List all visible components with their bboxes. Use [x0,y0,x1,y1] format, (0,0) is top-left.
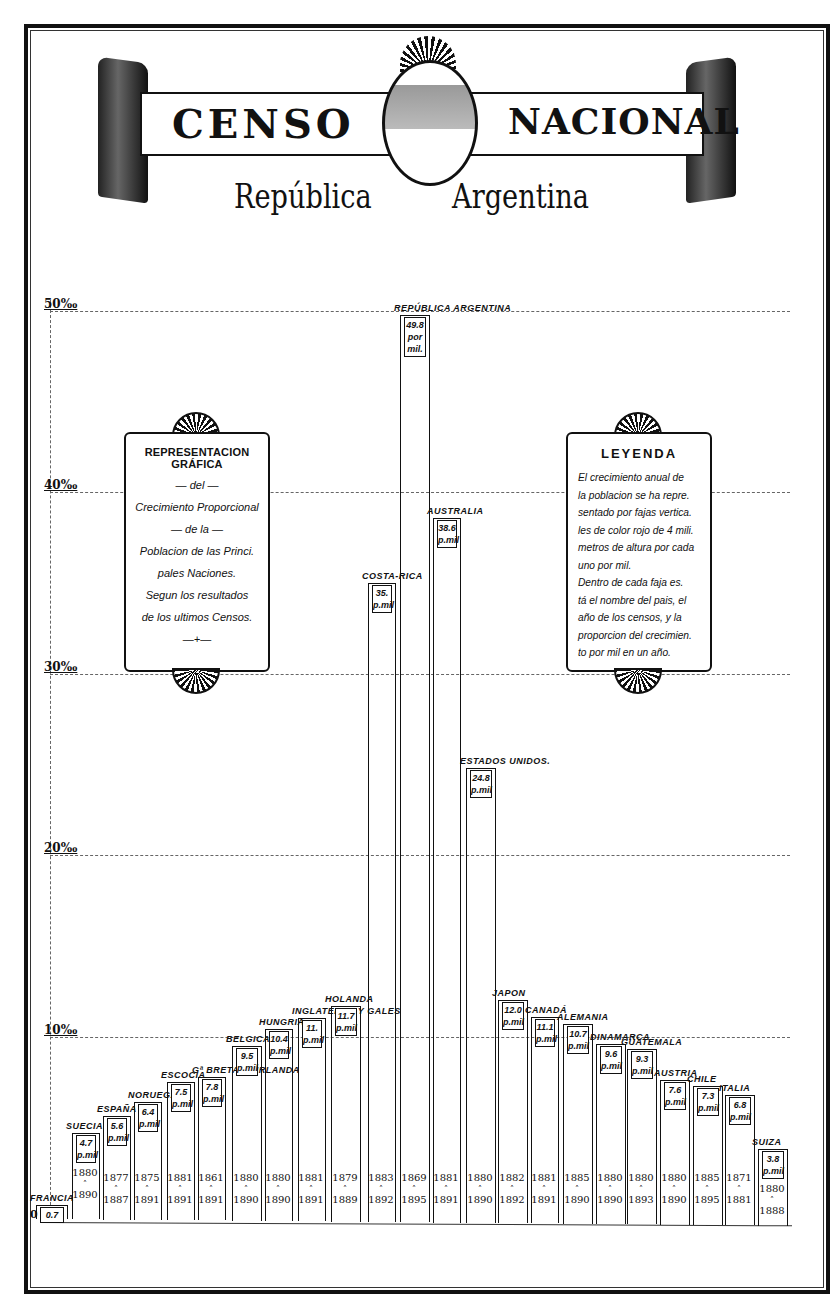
bar-census-years: 1880˄1890 [660,1172,688,1205]
legend-line: sentado por fajas vertica. [568,504,710,522]
bar-country-label: REPÚBLICA ARGENTINA [394,303,511,313]
caret-icon: ˄ [400,1183,428,1194]
bar-census-years: 1881˄1891 [167,1172,193,1205]
bar-value: 7.3 [698,1090,718,1102]
cartouche-line: Crecimiento Proporcional [126,496,268,518]
bar-census-years: 1883˄1892 [368,1172,394,1205]
bar-country-label: BELGICA [226,1034,270,1044]
subtitle-republica: República [234,176,372,216]
census-year-start: 1880 [660,1172,688,1183]
census-year-start: 1877 [103,1172,129,1183]
bar-unit: p.mil [108,1132,126,1144]
census-year-end: 1890 [563,1194,591,1205]
bar-value-label: 0.7 [40,1207,64,1223]
caret-icon: ˄ [660,1183,688,1194]
caret-icon: ˄ [498,1183,526,1194]
caret-icon: ˄ [531,1183,557,1194]
census-year-start: 1879 [331,1172,359,1183]
caret-icon: ˄ [298,1183,324,1194]
census-year-start: 1880 [596,1172,624,1183]
caret-icon: ˄ [433,1183,459,1194]
census-year-start: 1885 [693,1172,721,1183]
bar-unit: p.mil [172,1098,190,1110]
bar-unit: p.mil [698,1102,718,1114]
caret-icon: ˄ [167,1183,193,1194]
title-censo: CENSO [172,100,355,147]
census-year-start: 1869 [400,1172,428,1183]
census-year-start: 1881 [298,1172,324,1183]
bar-country-label: HOLANDA [325,994,374,1004]
bar-value-label: 9.5p.mil [236,1048,258,1076]
bar-value-label: 7.6p.mil [664,1082,686,1110]
y-tick-label: 40‰ [44,478,77,492]
bar-value: 9.6 [601,1048,621,1060]
bar-value: 7.6 [665,1084,685,1096]
legend-cartouche: LEYENDA El crecimiento anual de la pobla… [566,432,712,672]
bar-census-years: 1877˄1887 [103,1172,129,1205]
caret-icon: ˄ [627,1183,655,1194]
bar-value-label: 11.p.mil [302,1020,322,1048]
census-year-start: 1861 [198,1172,224,1183]
census-year-end: 1892 [368,1194,394,1205]
caret-icon: ˄ [134,1183,160,1194]
census-year-start: 1880 [627,1172,655,1183]
bar-unit: p.mil [438,534,456,546]
bar-value: 38.6 [438,522,456,534]
census-year-end: 1895 [693,1194,721,1205]
caret-icon: ˄ [466,1183,494,1194]
census-year-end: 1887 [103,1194,129,1205]
bar-value: 10.4 [270,1033,288,1045]
bar-country-label: FRANCIA [30,1193,74,1203]
legend-line: la poblacion se ha repre. [568,487,710,505]
bar-value: 11. [303,1022,321,1034]
bar-unit: p.mil [139,1118,157,1130]
bar-country-label: ALEMANIA [557,1012,609,1022]
census-year-end: 1893 [627,1194,655,1205]
census-year-end: 1891 [433,1194,459,1205]
bar-country-label: CHILE [687,1074,717,1084]
census-year-end: 1891 [198,1194,224,1205]
census-year-end: 1895 [400,1194,428,1205]
bar-country-label: SUIZA [752,1137,782,1147]
legend-line: Dentro de cada faja es. [568,574,710,592]
census-year-end: 1891 [531,1194,557,1205]
legend-line: año de los censos, y la [568,609,710,627]
bar-census-years: 1881˄1891 [298,1172,324,1205]
census-year-end: 1890 [232,1194,260,1205]
bar-value-label: 7.3p.mil [697,1088,719,1116]
bar-value-label: 49.8por mil. [404,317,426,357]
y-tick-label: 20‰ [44,841,77,855]
bar-country-label: AUSTRALIA [427,506,484,516]
bar-census-years: 1882˄1892 [498,1172,526,1205]
cartouche-title: REPRESENTACION GRÁFICA [126,446,268,470]
caret-icon: ˄ [596,1183,624,1194]
bar-census-years: 1869˄1895 [400,1172,428,1205]
caret-icon: ˄ [198,1183,224,1194]
y-tick-label: 50‰ [44,297,77,311]
bar-census-years: 1861˄1891 [198,1172,224,1205]
bar-unit: p.mil [665,1096,685,1108]
bar-unit: p.mil [336,1022,356,1034]
bar-value: 24.8 [471,772,491,784]
census-year-end: 1881 [725,1194,753,1205]
bar-country-label: ESTADOS UNIDOS. [460,756,550,766]
cartouche-line: —+— [126,628,268,650]
bar-unit: p.mil [373,599,391,611]
bar-value: 7.5 [172,1086,190,1098]
cartouche-line: Poblacion de las Princi. [126,540,268,562]
bar-value-label: 12.0p.mil [502,1002,524,1030]
bar-value: 6.4 [139,1106,157,1118]
bar-value-label: 10.4p.mil [269,1031,289,1059]
census-year-start: 1880 [265,1172,291,1183]
bar-value-label: 6.8p.mil [729,1097,751,1125]
subtitle-argentina: Argentina [452,176,589,216]
bar-census-years: 1880˄1890 [72,1167,98,1200]
bar-unit: p.mil [503,1016,523,1028]
census-year-end: 1891 [167,1194,193,1205]
bar-unit: p.mil [632,1065,652,1077]
census-year-start: 1875 [134,1172,160,1183]
bar-unit: p.mil [77,1149,95,1161]
legend-line: tá el nombre del pais, el [568,592,710,610]
bar-country-label: ESPAÑA [97,1104,137,1114]
bar-census-years: 1881˄1891 [433,1172,459,1205]
